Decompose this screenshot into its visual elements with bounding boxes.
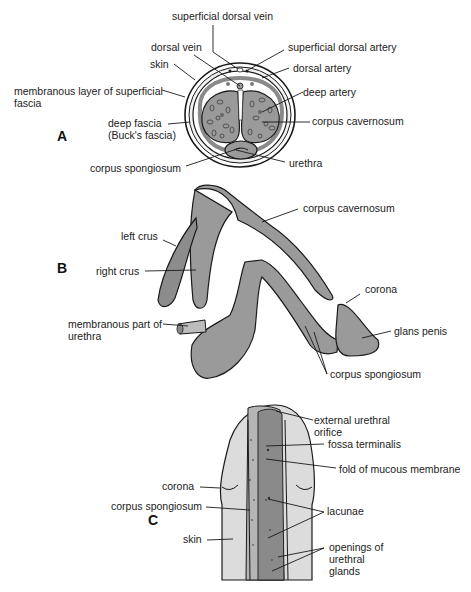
label-dorsal-artery: dorsal artery (293, 62, 351, 74)
label-corpus-spongiosum-b: corpus spongiosum (330, 368, 421, 380)
label-fold-of-mucous-membrane: fold of mucous membrane (339, 463, 460, 475)
label-corona-c: corona (162, 480, 194, 492)
label-lacunae: lacunae (327, 505, 364, 517)
label-membranous-urethra-line1: membranous part of (68, 318, 162, 330)
label-corpus-spongiosum-c: corpus spongiosum (111, 500, 202, 512)
label-deep-fascia-line2: (Buck's fascia) (108, 129, 176, 141)
label-right-crus: right crus (96, 265, 139, 277)
label-glans-penis: glans penis (394, 325, 447, 337)
label-superficial-dorsal-artery: superficial dorsal artery (288, 41, 397, 53)
label-corpus-cavernosum-a: corpus cavernosum (312, 115, 404, 127)
label-external-urethral-orifice-line1: external urethral (314, 414, 390, 426)
label-membranous-layer-superficial-fascia-line1: membranous layer of superficial (14, 85, 163, 97)
panel-letter-c: C (148, 512, 158, 528)
label-deep-artery: deep artery (303, 86, 356, 98)
label-membranous-urethra-line2: urethra (68, 330, 101, 342)
label-left-crus: left crus (121, 230, 158, 242)
label-superficial-dorsal-vein: superficial dorsal vein (172, 10, 273, 22)
label-membranous-layer-superficial-fascia-line2: fascia (14, 97, 41, 109)
label-deep-fascia-line1: deep fascia (108, 117, 162, 129)
label-fossa-terminalis: fossa terminalis (328, 438, 401, 450)
panel-b-erectile-tissue (145, 185, 391, 378)
label-skin-c: skin (183, 533, 202, 545)
label-skin-a: skin (150, 58, 169, 70)
label-urethra-a: urethra (289, 157, 322, 169)
label-corpus-cavernosum-b: corpus cavernosum (303, 202, 395, 214)
label-openings-of-urethral-glands-line1: openings of (329, 541, 383, 553)
label-external-urethral-orifice-line2: orifice (314, 426, 342, 438)
panel-letter-b: B (57, 260, 67, 276)
label-openings-of-urethral-glands-line3: glands (329, 565, 360, 577)
label-corona-b: corona (365, 283, 397, 295)
label-openings-of-urethral-glands-line2: urethral (329, 553, 365, 565)
panel-letter-a: A (57, 128, 67, 144)
label-dorsal-vein: dorsal vein (151, 41, 202, 53)
label-corpus-spongiosum-a: corpus spongiosum (90, 162, 181, 174)
